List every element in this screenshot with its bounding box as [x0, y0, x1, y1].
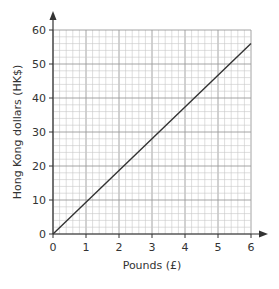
- grid: [53, 30, 251, 234]
- y-tick-label: 50: [32, 58, 46, 71]
- x-tick-label: 0: [50, 241, 57, 254]
- y-axis-arrow-icon: [50, 11, 57, 20]
- x-axis-arrow-icon: [259, 231, 268, 238]
- y-tick-label: 60: [32, 24, 46, 37]
- y-axis-title: Hong Kong dollars (HK$): [11, 65, 24, 200]
- x-axis-title: Pounds (£): [123, 259, 182, 272]
- y-tick-label: 0: [39, 228, 46, 241]
- y-tick-label: 30: [32, 126, 46, 139]
- y-tick-label: 40: [32, 92, 46, 105]
- x-tick-label: 5: [215, 241, 222, 254]
- y-tick-label: 20: [32, 160, 46, 173]
- conversion-graph: 01234560102030405060 Pounds (£) Hong Kon…: [0, 0, 279, 289]
- x-tick-label: 3: [149, 241, 156, 254]
- y-tick-label: 10: [32, 194, 46, 207]
- x-tick-label: 4: [182, 241, 189, 254]
- x-tick-label: 1: [83, 241, 90, 254]
- x-tick-label: 2: [116, 241, 123, 254]
- x-tick-label: 6: [248, 241, 255, 254]
